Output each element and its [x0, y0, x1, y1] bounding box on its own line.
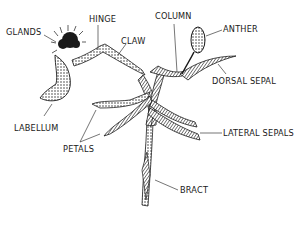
- label-petals: PETALS: [63, 145, 94, 153]
- label-anther: ANTHER: [223, 25, 258, 33]
- label-column: COLUMN: [155, 12, 192, 20]
- anther-shape: [191, 27, 205, 53]
- glands-shape: [51, 25, 86, 53]
- label-glands: GLANDS: [6, 28, 42, 36]
- label-labellum: LABELLUM: [14, 124, 59, 132]
- claw-shape: [72, 44, 145, 75]
- orchid-illustration: [0, 0, 295, 231]
- orchid-diagram: GLANDS HINGE CLAW COLUMN ANTHER DORSAL S…: [0, 0, 295, 231]
- label-dorsal-sepal: DORSAL SEPAL: [212, 77, 276, 85]
- label-hinge: HINGE: [89, 15, 116, 23]
- label-claw: CLAW: [121, 37, 146, 45]
- label-bract: BRACT: [180, 186, 208, 194]
- stem: [142, 120, 153, 206]
- label-lateral-sepals: LATERAL SEPALS: [223, 129, 294, 137]
